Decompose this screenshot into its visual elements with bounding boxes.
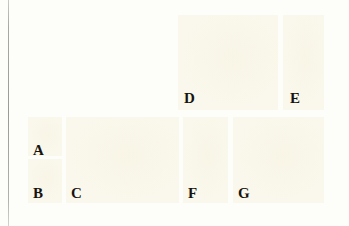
figure-page: DEABCFG <box>0 0 349 226</box>
panel-label-e: E <box>290 91 300 106</box>
panel-label-f: F <box>188 186 197 201</box>
page-margin-rule <box>8 0 9 226</box>
panel-c <box>66 117 179 203</box>
panel-label-c: C <box>71 186 82 201</box>
panel-label-a: A <box>33 143 44 158</box>
panel-label-b: B <box>33 186 43 201</box>
panel-label-d: D <box>184 91 195 106</box>
panel-label-g: G <box>238 186 250 201</box>
